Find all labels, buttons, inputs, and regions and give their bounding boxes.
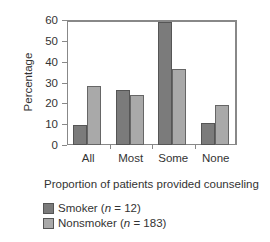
x-tick-label: All: [68, 152, 108, 164]
bar-none-nonsmoker: [215, 105, 229, 145]
y-tick-label: 60: [36, 14, 58, 26]
y-tick-label: 40: [36, 56, 58, 68]
y-tick-label: 30: [36, 77, 58, 89]
y-tick: [62, 145, 67, 146]
x-axis-label: Proportion of patients provided counseli…: [44, 178, 259, 190]
legend-swatch-nonsmoker: [43, 218, 54, 229]
x-tick: [195, 145, 196, 149]
bar-none-smoker: [201, 123, 215, 145]
y-tick-label: 10: [36, 118, 58, 130]
bar-all-smoker: [73, 125, 87, 145]
bar-some-smoker: [158, 22, 172, 145]
bar-all-nonsmoker: [87, 86, 101, 145]
bar-most-nonsmoker: [130, 95, 144, 145]
x-tick-label: Some: [153, 152, 193, 164]
x-tick-label: Most: [111, 152, 151, 164]
y-tick-label: 0: [36, 139, 58, 151]
legend-label-nonsmoker: Nonsmoker (n = 183): [58, 217, 166, 229]
x-tick-label: None: [196, 152, 236, 164]
legend-label-smoker: Smoker (n = 12): [58, 202, 141, 214]
legend-swatch-smoker: [43, 203, 54, 214]
y-tick-label: 20: [36, 97, 58, 109]
x-tick: [152, 145, 153, 149]
bar-some-nonsmoker: [172, 69, 186, 145]
y-tick-label: 50: [36, 35, 58, 47]
x-tick: [110, 145, 111, 149]
y-axis-label: Percentage: [22, 42, 34, 122]
bar-most-smoker: [116, 90, 130, 145]
